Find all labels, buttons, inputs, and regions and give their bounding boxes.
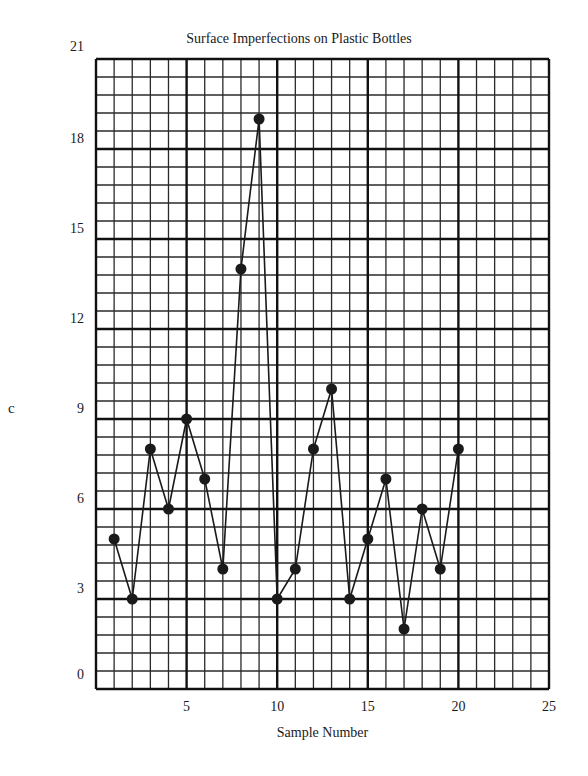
data-point-marker: [362, 534, 373, 545]
x-axis-ticks: 510152025: [183, 699, 556, 714]
y-tick-label: 0: [77, 667, 84, 682]
data-point-marker: [380, 474, 391, 485]
data-point-marker: [326, 384, 337, 395]
data-point-marker: [344, 594, 355, 605]
x-tick-label: 5: [183, 699, 190, 714]
x-tick-label: 25: [542, 699, 556, 714]
grid-major-lines: [96, 59, 549, 689]
plot-area: 036912151821 510152025: [0, 0, 588, 776]
grid-minor-lines: [96, 59, 549, 689]
data-point-marker: [181, 414, 192, 425]
y-tick-label: 9: [77, 401, 84, 416]
data-point-marker: [272, 594, 283, 605]
x-tick-label: 10: [270, 699, 284, 714]
data-point-marker: [145, 444, 156, 455]
series-line: [114, 119, 458, 629]
data-point-marker: [235, 264, 246, 275]
data-point-marker: [435, 564, 446, 575]
data-point-marker: [163, 504, 174, 515]
data-point-marker: [290, 564, 301, 575]
x-tick-label: 20: [451, 699, 465, 714]
y-tick-label: 12: [70, 311, 84, 326]
data-point-marker: [217, 564, 228, 575]
y-tick-label: 18: [70, 131, 84, 146]
y-tick-label: 3: [77, 581, 84, 596]
data-point-marker: [127, 594, 138, 605]
y-axis-ticks: 036912151821: [70, 39, 84, 682]
data-point-marker: [254, 114, 265, 125]
data-point-marker: [453, 444, 464, 455]
data-point-marker: [109, 534, 120, 545]
data-point-marker: [199, 474, 210, 485]
data-series: [109, 114, 464, 635]
x-tick-label: 15: [361, 699, 375, 714]
control-chart: Surface Imperfections on Plastic Bottles…: [0, 0, 588, 776]
data-point-marker: [399, 624, 410, 635]
y-tick-label: 6: [77, 491, 84, 506]
data-point-marker: [308, 444, 319, 455]
data-point-marker: [417, 504, 428, 515]
y-tick-label: 15: [70, 221, 84, 236]
y-tick-label: 21: [70, 39, 84, 54]
